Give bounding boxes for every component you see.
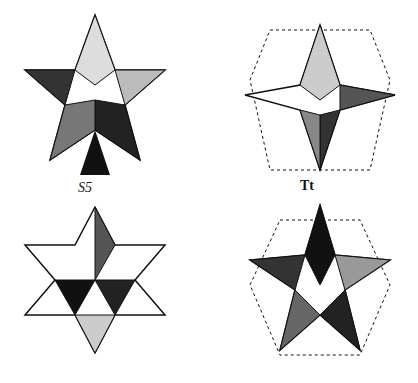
figure-bottom-left-polyhedron — [20, 205, 170, 355]
label-s5: S5 — [78, 180, 92, 196]
figure-top-left-polyhedron — [20, 10, 170, 180]
figure-bottom-right-polyhedron — [240, 200, 400, 370]
figure-top-right-polyhedron — [240, 20, 400, 185]
label-tt: Tt — [300, 178, 314, 194]
